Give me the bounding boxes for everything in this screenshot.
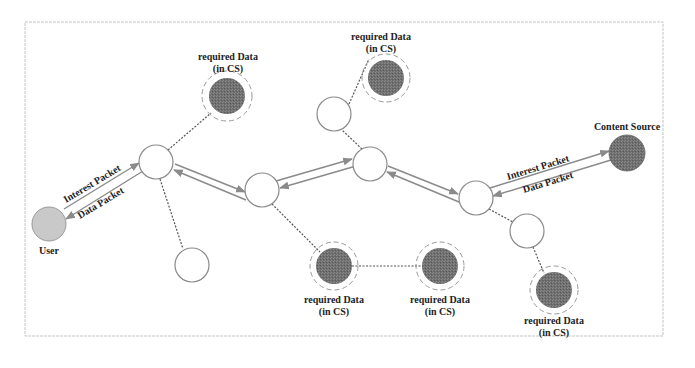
cache-label-line1: required Data xyxy=(524,315,584,326)
link-router-a-leaf-a xyxy=(160,179,183,249)
cache-label-line2: (in CS) xyxy=(319,306,349,318)
link-router-c-up xyxy=(342,130,362,149)
cache-node-5: required Data (in CS) xyxy=(524,266,584,339)
router-c xyxy=(353,147,387,181)
link-router-d-down xyxy=(489,209,513,222)
router-d xyxy=(459,181,493,215)
cache-label-line1: required Data xyxy=(304,294,364,305)
arrow-a-b xyxy=(175,164,245,192)
link-up-cache-2 xyxy=(349,59,369,104)
router-c-up xyxy=(317,97,351,131)
content-source-label: Content Source xyxy=(594,121,661,132)
leaf-a xyxy=(175,248,209,282)
cache-node-2: required Data (in CS) xyxy=(351,31,411,102)
router-b xyxy=(245,173,279,207)
cache-label-line2: (in CS) xyxy=(213,63,243,75)
cache-node-3: required Data (in CS) xyxy=(304,242,364,318)
cache-label-line1: required Data xyxy=(351,31,411,42)
user-node xyxy=(32,207,66,241)
cache-data xyxy=(536,272,572,308)
cache-label-line2: (in CS) xyxy=(366,43,396,55)
arrow-d-c xyxy=(387,172,459,202)
cache-data xyxy=(422,248,458,284)
router-d-down xyxy=(510,214,544,248)
ndn-topology-diagram: Interest Packet Data Packet Interest Pac… xyxy=(0,0,695,368)
user-label: User xyxy=(39,245,60,256)
link-router-b-cache-3 xyxy=(272,204,320,252)
cache-node-1: required Data (in CS) xyxy=(198,51,258,121)
cache-data xyxy=(209,78,245,114)
cache-label-line2: (in CS) xyxy=(539,327,569,339)
link-router-a-cache-1 xyxy=(168,113,211,150)
router-a xyxy=(139,145,173,179)
arrow-b-a xyxy=(174,170,246,200)
content-source-node xyxy=(609,135,645,171)
cache-node-4: required Data (in CS) xyxy=(410,242,470,318)
arrow-c-d xyxy=(388,166,458,194)
cache-data xyxy=(316,248,352,284)
cache-label-line2: (in CS) xyxy=(425,306,455,318)
cache-data xyxy=(368,60,404,96)
cache-label-line1: required Data xyxy=(410,294,470,305)
cache-label-line1: required Data xyxy=(198,51,258,62)
